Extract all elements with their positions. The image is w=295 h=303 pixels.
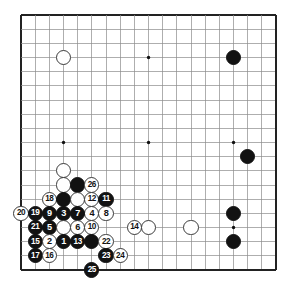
go-stone-move-number: 8 xyxy=(104,209,109,218)
go-stone-move-number: 12 xyxy=(88,195,96,203)
go-stone-move-number: 26 xyxy=(88,181,96,189)
go-stone-move-number: 21 xyxy=(31,223,39,231)
go-stone-move-number: 22 xyxy=(102,238,110,246)
go-stone-move-number: 11 xyxy=(102,195,110,203)
go-stone-move-number: 4 xyxy=(90,209,95,218)
go-stone-black-move-3: 3 xyxy=(56,206,71,221)
go-stone-move-number: 20 xyxy=(17,209,25,217)
go-stone-move-number: 15 xyxy=(31,238,39,246)
go-stone-black xyxy=(70,177,85,192)
go-stone-black-move-11: 11 xyxy=(98,192,113,207)
go-stone-white-move-26: 26 xyxy=(84,177,99,192)
go-diagram: 2612184112019937821561014152113221716232… xyxy=(0,0,295,303)
star-point xyxy=(232,226,235,229)
go-stone-white xyxy=(183,220,198,235)
go-stone-move-number: 24 xyxy=(116,252,124,260)
go-stone-move-number: 17 xyxy=(31,252,39,260)
go-stone-move-number: 10 xyxy=(88,223,96,231)
go-stone-black-move-23: 23 xyxy=(98,248,113,263)
star-point xyxy=(232,141,235,144)
go-stone-move-number: 23 xyxy=(102,252,110,260)
star-point xyxy=(147,141,150,144)
go-stone-white-move-8: 8 xyxy=(98,206,113,221)
go-stone-move-number: 16 xyxy=(45,252,53,260)
go-stone-move-number: 6 xyxy=(75,223,80,232)
go-stone-white-move-22: 22 xyxy=(98,234,113,249)
go-stone-move-number: 19 xyxy=(31,209,39,217)
go-stone-white-move-20: 20 xyxy=(13,206,28,221)
go-stone-white-move-14: 14 xyxy=(127,220,142,235)
go-stone-move-number: 25 xyxy=(88,266,96,274)
go-stone-move-number: 1 xyxy=(61,237,66,246)
go-stone-black xyxy=(226,206,241,221)
go-stone-black-move-5: 5 xyxy=(42,220,57,235)
go-stone-move-number: 2 xyxy=(47,237,52,246)
go-stone-white xyxy=(56,177,71,192)
go-stone-move-number: 18 xyxy=(45,195,53,203)
go-stone-move-number: 14 xyxy=(130,223,138,231)
go-stone-move-number: 13 xyxy=(74,238,82,246)
go-stone-black-move-19: 19 xyxy=(28,206,43,221)
go-stone-move-number: 7 xyxy=(75,209,80,218)
star-point xyxy=(147,56,150,59)
go-stone-black-move-21: 21 xyxy=(28,220,43,235)
go-stone-black-move-15: 15 xyxy=(28,234,43,249)
go-stone-move-number: 9 xyxy=(47,209,52,218)
go-stone-white-move-18: 18 xyxy=(42,192,57,207)
go-stone-black-move-25: 25 xyxy=(84,262,99,277)
go-stone-move-number: 3 xyxy=(61,209,66,218)
go-stone-move-number: 5 xyxy=(47,223,52,232)
go-stone-black-move-9: 9 xyxy=(42,206,57,221)
go-stone-black xyxy=(56,192,71,207)
star-point xyxy=(62,141,65,144)
go-stone-white xyxy=(70,192,85,207)
